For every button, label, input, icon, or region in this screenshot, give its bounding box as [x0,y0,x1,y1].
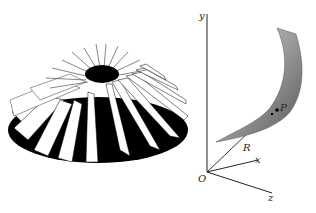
z-axis [207,172,272,193]
point-P-marker [275,108,279,112]
x-axis-label: x [255,154,261,165]
axes-diagram: y x z O R P [198,10,302,203]
origin-label: O [198,173,206,184]
point-P-label: P [279,102,287,113]
vector-R-label: R [242,142,251,153]
x-axis [207,160,258,172]
impeller-illustration [8,44,188,163]
impeller-hub [85,65,119,83]
figure-canvas: y x z O R P [0,0,316,213]
y-axis-label: y [198,10,205,21]
point-marker [271,113,273,115]
blade-surface [216,28,302,142]
z-axis-label: z [267,192,274,203]
